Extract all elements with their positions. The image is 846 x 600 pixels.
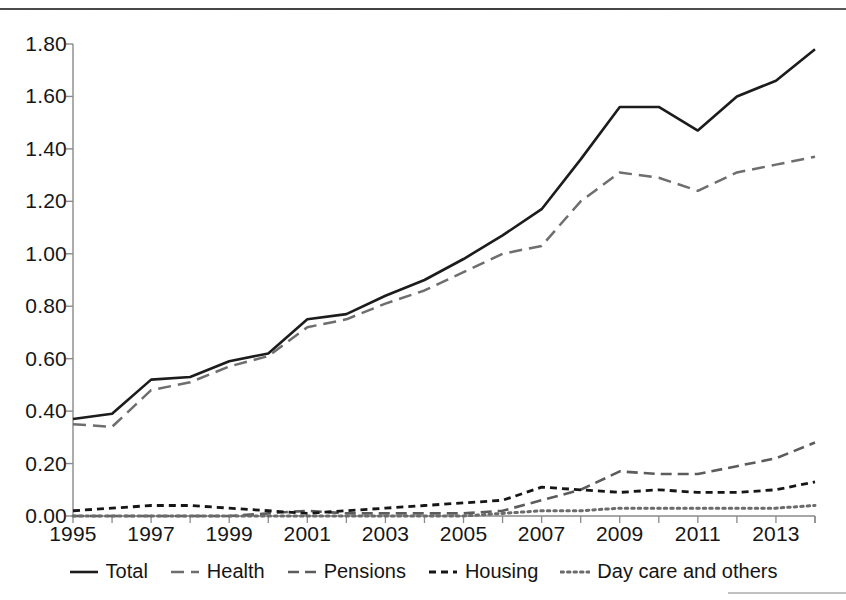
series-line-total (73, 49, 815, 419)
legend-item-day-care-and-others[interactable]: Day care and others (560, 560, 777, 583)
y-axis-tick-label: 0.60 (5, 347, 67, 371)
x-axis-tick-label: 2011 (663, 522, 733, 546)
plot-area (0, 0, 846, 545)
legend-swatch-long-dash-icon (170, 565, 200, 579)
page-bottom-rule (728, 592, 846, 594)
x-axis-tick-label: 2003 (350, 522, 420, 546)
x-axis-tick-label: 2009 (585, 522, 655, 546)
legend-item-health[interactable]: Health (170, 560, 265, 583)
series-line-health (73, 157, 815, 427)
legend-swatch-short-dash-icon (428, 565, 458, 579)
y-axis-tick-label: 0.80 (5, 294, 67, 318)
legend-label: Total (106, 560, 148, 583)
y-axis-tick-label: 1.00 (5, 242, 67, 266)
x-axis-tick-label: 1999 (194, 522, 264, 546)
legend-label: Health (207, 560, 265, 583)
y-axis-tick-label: 0.20 (5, 452, 67, 476)
x-axis-tick-label: 2013 (741, 522, 811, 546)
legend-swatch-medium-dash-icon (287, 565, 317, 579)
y-axis-tick-label: 1.40 (5, 137, 67, 161)
legend-label: Pensions (324, 560, 406, 583)
x-axis-tick-label: 1995 (38, 522, 108, 546)
legend-item-pensions[interactable]: Pensions (287, 560, 406, 583)
legend-label: Housing (465, 560, 538, 583)
legend-swatch-solid-icon (69, 565, 99, 579)
y-axis-tick-label: 1.20 (5, 189, 67, 213)
legend-item-total[interactable]: Total (69, 560, 148, 583)
series-lines (73, 49, 815, 516)
chart-figure: 0.000.200.400.600.801.001.201.401.601.80… (0, 0, 846, 600)
x-axis-tick-label: 2007 (507, 522, 577, 546)
legend-item-housing[interactable]: Housing (428, 560, 538, 583)
series-line-day-care-and-others (73, 506, 815, 516)
legend-swatch-dotted-icon (560, 565, 590, 579)
x-axis-tick-label: 1997 (116, 522, 186, 546)
x-axis-tick-label: 2001 (272, 522, 342, 546)
y-axis-tick-label: 1.60 (5, 84, 67, 108)
x-axis-tick-label: 2005 (429, 522, 499, 546)
legend-label: Day care and others (597, 560, 777, 583)
chart-legend: TotalHealthPensionsHousingDay care and o… (0, 560, 846, 583)
y-axis-tick-label: 0.40 (5, 399, 67, 423)
line-chart-svg (0, 0, 846, 545)
y-axis-tick-label: 1.80 (5, 32, 67, 56)
